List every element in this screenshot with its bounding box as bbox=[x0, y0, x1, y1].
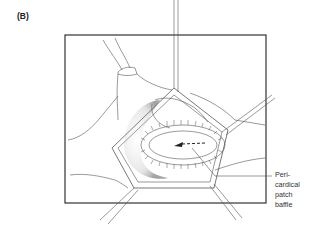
annotation-line: Peri- bbox=[275, 170, 300, 180]
annotation-line: baffle bbox=[275, 200, 300, 210]
annotation-line: cardical bbox=[275, 180, 300, 190]
annotation-line: patch bbox=[275, 190, 300, 200]
callout-leader bbox=[192, 148, 272, 176]
annotation-patch-baffle: Peri- cardical patch baffle bbox=[275, 170, 300, 210]
patch-baffle bbox=[141, 120, 225, 169]
flow-arrow-icon bbox=[174, 142, 183, 147]
